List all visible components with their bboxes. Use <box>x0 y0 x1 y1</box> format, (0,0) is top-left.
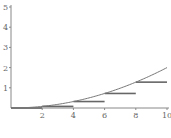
y-tick-label: 2 <box>3 64 8 73</box>
x-tick-label: 2 <box>40 111 45 120</box>
x-tick-label: 4 <box>71 111 76 120</box>
step-segments <box>11 82 167 108</box>
riemann-sum-chart: 246810 12345 <box>0 0 171 138</box>
x-tick-label: 10 <box>162 111 171 120</box>
x-axis-ticks: 246810 <box>40 108 171 120</box>
x-tick-label: 8 <box>133 111 138 120</box>
y-tick-label: 1 <box>3 84 8 93</box>
x-tick-label: 6 <box>102 111 107 120</box>
y-tick-label: 3 <box>3 43 8 52</box>
y-tick-label: 5 <box>3 3 8 12</box>
y-tick-label: 4 <box>3 23 8 32</box>
axes <box>11 5 169 108</box>
y-axis-ticks: 12345 <box>3 3 11 93</box>
